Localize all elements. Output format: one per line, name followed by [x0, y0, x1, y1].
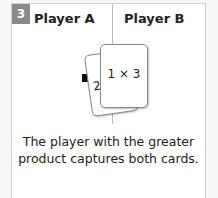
card-front-text: 1 × 3: [101, 67, 147, 81]
step-number-badge: 3: [12, 4, 30, 24]
step-panel: 3 Player A Player B 2 1 × 3 The player w…: [11, 3, 206, 198]
player-b-heading: Player B: [124, 11, 185, 26]
caption: The player with the greater product capt…: [12, 133, 205, 167]
player-a-heading: Player A: [34, 11, 95, 26]
card-front: 1 × 3: [100, 44, 148, 108]
caption-line-1: The player with the greater: [12, 133, 205, 150]
caption-line-2: product captures both cards.: [12, 150, 205, 167]
